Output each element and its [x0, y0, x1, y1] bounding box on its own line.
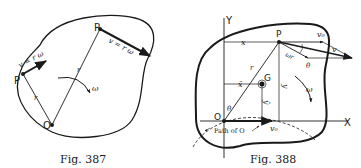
label-path-of-o: Path of O [214, 127, 245, 135]
label-theta-origin: θ [227, 105, 232, 113]
caption-fig-387: Fig. 387 [60, 153, 106, 166]
label-g: G [264, 73, 271, 83]
label-y-bar: ȳ [262, 99, 271, 105]
label-omega-r: ωr [284, 51, 296, 62]
label-v0-top: v₀ [317, 30, 326, 39]
radius-line-left [23, 74, 52, 125]
label-origin: O [214, 112, 221, 122]
omega-rotation-arrow [58, 77, 90, 93]
label-r: r [250, 64, 254, 72]
label-x: x [241, 38, 246, 47]
figure-388: Y X P O G x x̄ y ȳ r θ θ ω ωr v₀ v₀ v Pa… [193, 15, 352, 166]
theta-arc-p [300, 44, 303, 53]
label-velocity-left: v = r ω [17, 49, 45, 70]
radius-line-top [52, 29, 100, 125]
label-x-axis: X [344, 117, 351, 128]
label-v: v [332, 45, 337, 54]
label-p-top: P [94, 22, 100, 33]
figure-387: P P O v = r ω v = r ω r r ω Fig. 387 [14, 15, 154, 166]
path-label-arrow-right [252, 126, 259, 131]
label-theta-p: θ [306, 62, 311, 70]
label-p-left: P [14, 75, 20, 86]
rigid-body-outline [17, 15, 153, 137]
label-omega: ω [92, 84, 99, 93]
label-origin: O [43, 120, 51, 131]
label-radius-short: r [34, 94, 38, 102]
label-velocity-top: v = r ω [107, 36, 135, 57]
label-omega: ω [306, 85, 313, 94]
label-y: y [281, 83, 290, 89]
label-y-axis: Y [225, 15, 233, 26]
caption-fig-388: Fig. 388 [250, 153, 296, 166]
figure-canvas: P P O v = r ω v = r ω r r ω Fig. 387 [0, 0, 361, 168]
label-x-bar: x̄ [238, 80, 243, 89]
label-v0-bottom: v₀ [270, 124, 279, 133]
label-p: P [276, 29, 282, 39]
